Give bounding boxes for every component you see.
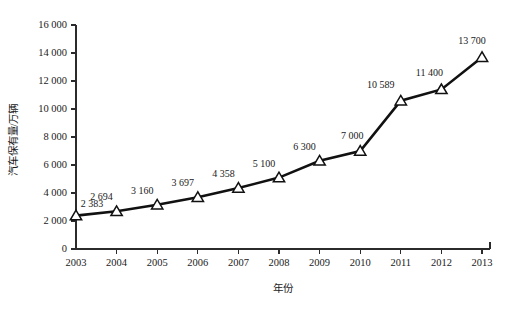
y-tick-label: 4 000: [43, 187, 67, 198]
data-point-label: 5 100: [253, 158, 276, 169]
y-tick-label: 6 000: [43, 159, 67, 170]
x-tick-label: 2006: [187, 257, 208, 268]
y-tick-label: 16 000: [38, 19, 67, 30]
y-tick-label: 10 000: [38, 103, 67, 114]
x-tick-label: 2004: [106, 257, 128, 268]
x-tick-label: 2003: [66, 257, 87, 268]
y-tick-label: 8 000: [43, 131, 67, 142]
x-axis-title: 年份: [273, 282, 294, 294]
x-tick-label: 2005: [147, 257, 168, 268]
y-axis-tick-labels: 02 0004 0006 0008 00010 00012 00014 0001…: [38, 19, 67, 254]
x-tick-label: 2009: [309, 257, 330, 268]
x-tick-label: 2013: [472, 257, 493, 268]
x-tick-label: 2010: [350, 257, 371, 268]
data-point-label: 6 300: [293, 141, 316, 152]
data-point-label: 11 400: [416, 67, 443, 78]
y-tick-label: 14 000: [38, 47, 67, 58]
line-chart: 02 0004 0006 0008 00010 00012 00014 0001…: [0, 0, 513, 312]
data-point-label: 4 358: [212, 168, 235, 179]
data-point-label: 3 160: [131, 185, 154, 196]
y-tick-label: 12 000: [38, 75, 67, 86]
x-tick-label: 2007: [228, 257, 249, 268]
x-tick-label: 2008: [269, 257, 290, 268]
y-tick-label: 2 000: [43, 215, 67, 226]
x-tick-label: 2011: [390, 257, 411, 268]
data-point-label: 3 697: [172, 177, 195, 188]
chart-figure: 02 0004 0006 0008 00010 00012 00014 0001…: [0, 0, 513, 312]
data-point-label: 7 000: [341, 130, 364, 141]
y-axis-title: 汽车保有量/万辆: [7, 104, 19, 177]
y-tick-label: 0: [62, 243, 67, 254]
data-point-label: 13 700: [458, 35, 486, 46]
data-point-label: 2 694: [90, 191, 113, 202]
data-point-label: 10 589: [367, 79, 395, 90]
x-tick-label: 2012: [431, 257, 452, 268]
